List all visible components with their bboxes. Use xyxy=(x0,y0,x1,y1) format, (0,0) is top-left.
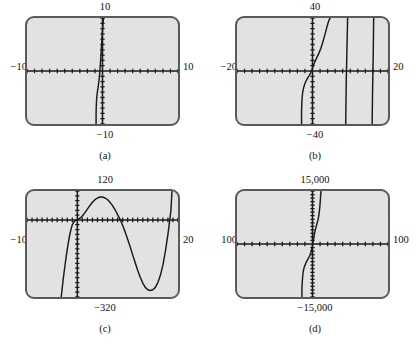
chart-panel-b: 40 −20 20 −40 (b) xyxy=(210,0,420,172)
figure-grid: 10 −10 10 −10 (a) 40 −20 20 −40 (b) 120 … xyxy=(0,0,420,345)
panel-a-label-top: 10 xyxy=(100,2,111,13)
panel-b-plot xyxy=(237,18,388,124)
chart-panel-d: 15,000 100 100 −15,000 (d) xyxy=(210,173,420,345)
panel-c-screen xyxy=(25,189,180,299)
panel-d-calculator-screen xyxy=(235,189,390,299)
panel-b-calculator-screen xyxy=(235,16,390,126)
panel-c-label-right: 20 xyxy=(183,235,194,246)
panel-a-plot xyxy=(27,18,178,124)
panel-d-screen xyxy=(235,189,390,299)
panel-a-label-bottom: −10 xyxy=(97,130,113,141)
panel-d-plot xyxy=(237,191,388,297)
panel-d-label-bottom: −15,000 xyxy=(298,303,333,314)
panel-d-caption: (d) xyxy=(210,323,420,334)
chart-panel-c: 120 −10 20 −320 (c) xyxy=(0,173,210,345)
panel-b-caption: (b) xyxy=(210,150,420,161)
panel-c-caption: (c) xyxy=(0,323,210,334)
panel-c-plot xyxy=(27,191,178,297)
panel-b-label-right: 20 xyxy=(393,62,404,73)
panel-a-caption: (a) xyxy=(0,150,210,161)
panel-a-label-right: 10 xyxy=(183,62,194,73)
panel-d-label-top: 15,000 xyxy=(301,175,330,186)
panel-c-label-top: 120 xyxy=(97,175,113,186)
panel-b-label-top: 40 xyxy=(310,2,321,13)
panel-a-screen xyxy=(25,16,180,126)
panel-b-label-bottom: −40 xyxy=(307,130,323,141)
panel-b-screen xyxy=(235,16,390,126)
panel-d-label-right: 100 xyxy=(393,235,409,246)
panel-a-calculator-screen xyxy=(25,16,180,126)
panel-c-label-bottom: −320 xyxy=(94,303,116,314)
chart-panel-a: 10 −10 10 −10 (a) xyxy=(0,0,210,172)
panel-c-calculator-screen xyxy=(25,189,180,299)
